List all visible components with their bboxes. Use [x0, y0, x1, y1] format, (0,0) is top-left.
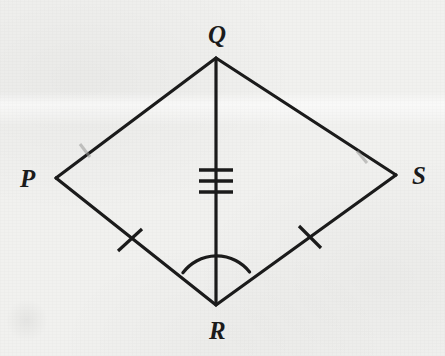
- tick-mark-rs-1: [299, 226, 321, 248]
- segment-RS: [216, 175, 396, 305]
- segment-PQ: [56, 58, 216, 178]
- tick-mark-pr-1: [118, 229, 142, 251]
- geometry-figure: Q P S R: [0, 0, 445, 356]
- segment-QS: [216, 58, 396, 175]
- vertex-label-Q: Q: [208, 22, 226, 47]
- kite-diagram-canvas: [0, 0, 445, 356]
- vertex-label-R: R: [209, 318, 226, 343]
- segment-PR: [56, 178, 216, 305]
- vertex-label-P: P: [20, 166, 36, 191]
- vertex-label-S: S: [412, 163, 426, 188]
